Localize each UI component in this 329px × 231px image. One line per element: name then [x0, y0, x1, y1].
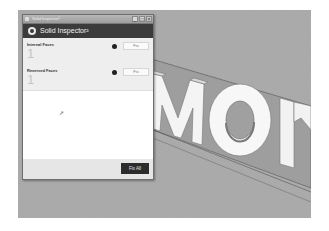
fix-internal-faces-button[interactable]: Fix: [123, 42, 149, 50]
solid-inspector-logo-icon: [28, 27, 36, 35]
inspector-header: Solid Inspector²: [23, 24, 153, 38]
solid-inspector-window[interactable]: Solid Inspector² _ □ × Solid Inspector² …: [22, 14, 154, 180]
fix-all-button[interactable]: Fix All: [121, 163, 149, 174]
section-reversed-faces: Reversed Faces 1 Fix: [23, 64, 153, 90]
close-button[interactable]: ×: [146, 16, 152, 22]
window-titlebar[interactable]: Solid Inspector² _ □ ×: [23, 15, 153, 24]
inspector-footer: Fix All: [23, 159, 153, 179]
error-count: 1: [27, 47, 34, 60]
letter-o: [209, 84, 271, 156]
error-status-icon: [112, 70, 117, 75]
content-area: ➚: [23, 90, 153, 160]
fix-reversed-faces-button[interactable]: Fix: [123, 68, 149, 76]
error-status-icon: [112, 44, 117, 49]
window-title: Solid Inspector²: [32, 15, 60, 23]
mouse-cursor-icon: ➚: [59, 109, 64, 116]
minimize-button[interactable]: _: [132, 16, 138, 22]
app-icon: [25, 17, 29, 21]
inspector-title: Solid Inspector²: [40, 24, 89, 38]
section-internal-faces: Internal Faces 1 Fix: [23, 38, 153, 64]
error-count: 1: [27, 73, 34, 86]
maximize-button[interactable]: □: [139, 16, 145, 22]
